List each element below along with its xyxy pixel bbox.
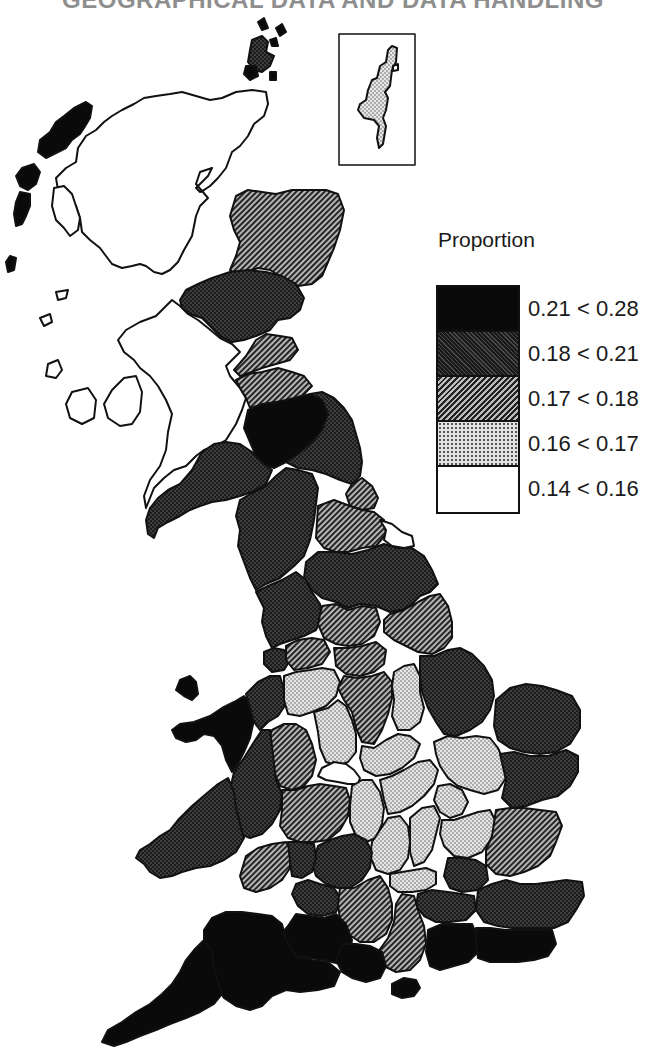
legend: Proportion 0.21 < 0.28 0.18 < 0.21 0.17 … [436, 228, 535, 252]
region-gloucestershire [312, 834, 372, 888]
legend-title: Proportion [438, 228, 535, 252]
region-bedfordshire [434, 784, 468, 818]
region-dyfed [136, 778, 244, 878]
legend-label: 0.18 < 0.21 [528, 339, 639, 384]
legend-swatch-0.14-0.16 [438, 467, 518, 512]
region-glamorgan [240, 842, 292, 892]
region-dorset [336, 944, 386, 982]
region-east-sussex [476, 928, 556, 962]
choropleth-map [0, 0, 666, 1050]
region-essex [486, 808, 562, 876]
region-suffolk [500, 750, 578, 808]
region-hereford-worcester [280, 784, 350, 842]
region-lincolnshire [420, 648, 494, 736]
region-isle-of-wight [392, 978, 420, 998]
region-surrey [416, 890, 476, 922]
legend-label: 0.14 < 0.16 [528, 474, 639, 519]
region-greater-manchester [286, 638, 330, 670]
legend-swatch-0.18-0.21 [438, 332, 518, 377]
legend-label: 0.17 < 0.18 [528, 384, 639, 429]
region-buckinghamshire [410, 806, 440, 866]
legend-swatch-0.21-0.28 [438, 287, 518, 332]
region-nottinghamshire [392, 664, 424, 730]
region-durham [316, 500, 386, 552]
legend-labels: 0.21 < 0.28 0.18 < 0.21 0.17 < 0.18 0.16… [528, 294, 639, 519]
region-cornwall [102, 940, 222, 1046]
region-west-yorkshire [318, 604, 380, 646]
legend-swatches [436, 285, 520, 514]
legend-swatch-0.17-0.18 [438, 377, 518, 422]
region-south-yorkshire [334, 642, 386, 676]
region-gwent [288, 842, 316, 878]
region-greater-london [444, 858, 488, 892]
legend-swatch-0.16-0.17 [438, 422, 518, 467]
region-kent [476, 880, 584, 928]
legend-label: 0.16 < 0.17 [528, 429, 639, 474]
region-norfolk [494, 684, 580, 754]
legend-label: 0.21 < 0.28 [528, 294, 639, 339]
region-west-sussex [426, 924, 478, 970]
region-west-midlands [318, 762, 360, 784]
